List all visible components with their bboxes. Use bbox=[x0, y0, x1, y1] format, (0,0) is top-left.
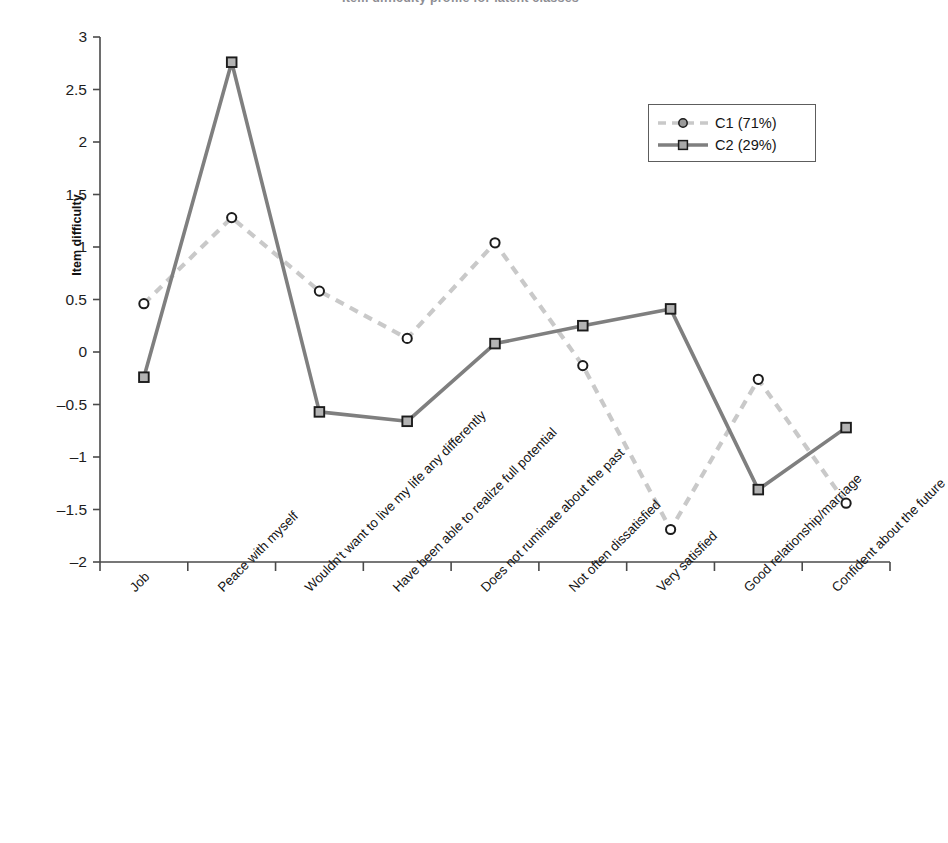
data-point-marker bbox=[139, 299, 148, 308]
legend-item-c1[interactable]: C1 (71%) bbox=[649, 112, 815, 134]
data-point-marker bbox=[403, 334, 412, 343]
legend-label-c1: C1 (71%) bbox=[715, 115, 777, 131]
y-axis-tick-label: –1 bbox=[29, 448, 87, 466]
data-point-marker bbox=[578, 361, 587, 370]
data-point-marker bbox=[754, 485, 764, 495]
data-point-marker bbox=[227, 57, 237, 67]
data-point-marker bbox=[754, 375, 763, 384]
data-point-marker bbox=[315, 407, 325, 417]
y-axis-tick-label: 1 bbox=[29, 238, 87, 256]
y-axis-tick-label: 0.5 bbox=[29, 291, 87, 309]
y-axis-tick-label: 0 bbox=[29, 343, 87, 361]
data-point-marker bbox=[841, 423, 851, 433]
y-axis-tick-label: 2 bbox=[29, 133, 87, 151]
legend-label-c2: C2 (29%) bbox=[715, 137, 777, 153]
y-axis-tick-label: –1.5 bbox=[29, 501, 87, 519]
data-point-marker bbox=[315, 287, 324, 296]
legend-key-dashed-circle bbox=[657, 116, 709, 130]
data-point-marker bbox=[227, 213, 236, 222]
data-point-marker bbox=[490, 339, 500, 349]
y-axis-tick-label: 3 bbox=[29, 28, 87, 46]
data-point-marker bbox=[490, 238, 499, 247]
legend-item-c2[interactable]: C2 (29%) bbox=[649, 134, 815, 156]
data-point-marker bbox=[666, 304, 676, 314]
chart-legend: C1 (71%) C2 (29%) bbox=[648, 104, 816, 162]
data-point-marker bbox=[139, 372, 149, 382]
y-axis-tick-label: 2.5 bbox=[29, 81, 87, 99]
y-axis-tick-label: 1.5 bbox=[29, 186, 87, 204]
legend-key-solid-square bbox=[657, 138, 709, 152]
y-axis-tick-label: –2 bbox=[29, 553, 87, 571]
data-point-marker bbox=[666, 525, 675, 534]
data-point-marker bbox=[578, 321, 588, 331]
data-point-marker bbox=[402, 417, 412, 427]
y-axis-tick-label: –0.5 bbox=[29, 396, 87, 414]
